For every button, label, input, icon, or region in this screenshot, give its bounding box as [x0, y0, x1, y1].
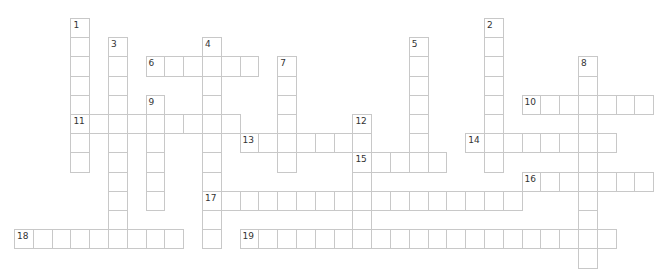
- crossword-cell[interactable]: [540, 229, 560, 249]
- crossword-cell[interactable]: [89, 114, 109, 134]
- crossword-cell[interactable]: [484, 133, 504, 153]
- crossword-cell[interactable]: [559, 95, 579, 115]
- cell-letter-input[interactable]: [541, 96, 559, 114]
- crossword-cell[interactable]: [371, 152, 391, 172]
- crossword-cell[interactable]: [296, 133, 316, 153]
- crossword-cell[interactable]: [146, 152, 166, 172]
- cell-letter-input[interactable]: [617, 173, 635, 191]
- cell-letter-input[interactable]: [635, 96, 653, 114]
- cell-letter-input[interactable]: [429, 230, 447, 248]
- crossword-cell[interactable]: 13: [240, 133, 260, 153]
- crossword-cell[interactable]: [578, 152, 598, 172]
- crossword-cell[interactable]: [315, 229, 335, 249]
- cell-letter-input[interactable]: [598, 173, 616, 191]
- crossword-cell[interactable]: [108, 152, 128, 172]
- crossword-cell[interactable]: [146, 229, 166, 249]
- crossword-cell[interactable]: [240, 191, 260, 211]
- crossword-cell[interactable]: 12: [352, 114, 372, 134]
- cell-letter-input[interactable]: [109, 115, 127, 133]
- cell-letter-input[interactable]: [203, 153, 221, 171]
- cell-letter-input[interactable]: [71, 96, 89, 114]
- cell-letter-input[interactable]: [372, 230, 390, 248]
- cell-letter-input[interactable]: [71, 230, 89, 248]
- cell-letter-input[interactable]: [109, 153, 127, 171]
- crossword-cell[interactable]: [409, 229, 429, 249]
- cell-letter-input[interactable]: [410, 77, 428, 95]
- cell-letter-input[interactable]: [429, 153, 447, 171]
- crossword-cell[interactable]: [202, 229, 222, 249]
- cell-letter-input[interactable]: [109, 77, 127, 95]
- cell-letter-input[interactable]: [523, 230, 541, 248]
- cell-letter-input[interactable]: [485, 57, 503, 75]
- crossword-cell[interactable]: [409, 114, 429, 134]
- cell-letter-input[interactable]: [222, 115, 240, 133]
- crossword-cell[interactable]: [277, 76, 297, 96]
- crossword-cell[interactable]: [409, 133, 429, 153]
- cell-letter-input[interactable]: [203, 96, 221, 114]
- crossword-cell[interactable]: [390, 229, 410, 249]
- crossword-cell[interactable]: [334, 133, 354, 153]
- cell-letter-input[interactable]: [278, 115, 296, 133]
- crossword-cell[interactable]: 6: [146, 56, 166, 76]
- crossword-cell[interactable]: [503, 191, 523, 211]
- crossword-cell[interactable]: [578, 133, 598, 153]
- crossword-cell[interactable]: [409, 191, 429, 211]
- crossword-cell[interactable]: [164, 56, 184, 76]
- crossword-cell[interactable]: [484, 37, 504, 57]
- cell-letter-input[interactable]: [485, 77, 503, 95]
- crossword-cell[interactable]: [484, 229, 504, 249]
- crossword-cell[interactable]: [70, 95, 90, 115]
- crossword-cell[interactable]: [202, 56, 222, 76]
- crossword-cell[interactable]: [108, 95, 128, 115]
- crossword-cell[interactable]: 3: [108, 37, 128, 57]
- crossword-cell[interactable]: [409, 95, 429, 115]
- cell-letter-input[interactable]: [353, 173, 371, 191]
- crossword-cell[interactable]: [371, 191, 391, 211]
- crossword-cell[interactable]: [390, 191, 410, 211]
- crossword-cell[interactable]: [296, 191, 316, 211]
- cell-letter-input[interactable]: [523, 134, 541, 152]
- cell-letter-input[interactable]: [278, 134, 296, 152]
- crossword-cell[interactable]: [409, 56, 429, 76]
- cell-letter-input[interactable]: [203, 57, 221, 75]
- cell-letter-input[interactable]: [241, 57, 259, 75]
- cell-letter-input[interactable]: [485, 115, 503, 133]
- crossword-cell[interactable]: [202, 95, 222, 115]
- crossword-cell[interactable]: [578, 229, 598, 249]
- crossword-cell[interactable]: [634, 95, 654, 115]
- crossword-cell[interactable]: [522, 229, 542, 249]
- crossword-cell[interactable]: [164, 229, 184, 249]
- crossword-cell[interactable]: [409, 76, 429, 96]
- crossword-cell[interactable]: [70, 37, 90, 57]
- crossword-cell[interactable]: [503, 229, 523, 249]
- crossword-cell[interactable]: [89, 229, 109, 249]
- cell-letter-input[interactable]: [316, 192, 334, 210]
- cell-letter-input[interactable]: [147, 153, 165, 171]
- cell-letter-input[interactable]: [353, 192, 371, 210]
- crossword-cell[interactable]: [409, 152, 429, 172]
- crossword-cell[interactable]: [616, 95, 636, 115]
- crossword-cell[interactable]: [578, 95, 598, 115]
- crossword-cell[interactable]: [446, 229, 466, 249]
- crossword-cell[interactable]: [108, 114, 128, 134]
- cell-letter-input[interactable]: [109, 134, 127, 152]
- cell-letter-input[interactable]: [71, 134, 89, 152]
- crossword-cell[interactable]: [578, 76, 598, 96]
- cell-letter-input[interactable]: [34, 230, 52, 248]
- cell-letter-input[interactable]: [579, 192, 597, 210]
- crossword-cell[interactable]: [503, 133, 523, 153]
- crossword-cell[interactable]: [70, 133, 90, 153]
- crossword-cell[interactable]: [52, 229, 72, 249]
- cell-letter-input[interactable]: [165, 230, 183, 248]
- crossword-cell[interactable]: [70, 229, 90, 249]
- crossword-cell[interactable]: [258, 229, 278, 249]
- cell-letter-input[interactable]: [90, 230, 108, 248]
- crossword-cell[interactable]: [127, 114, 147, 134]
- crossword-cell[interactable]: [277, 95, 297, 115]
- crossword-cell[interactable]: [352, 133, 372, 153]
- cell-letter-input[interactable]: [504, 192, 522, 210]
- cell-letter-input[interactable]: [53, 230, 71, 248]
- cell-letter-input[interactable]: [485, 230, 503, 248]
- crossword-cell[interactable]: [352, 172, 372, 192]
- cell-letter-input[interactable]: [278, 77, 296, 95]
